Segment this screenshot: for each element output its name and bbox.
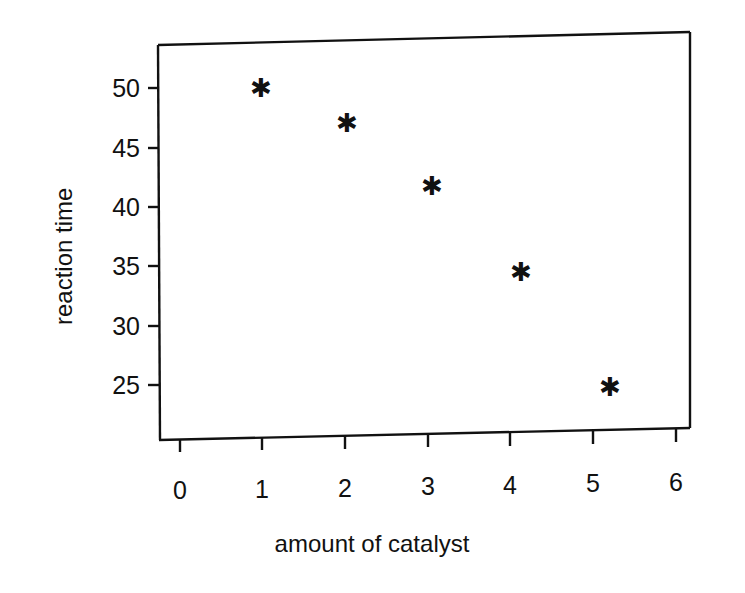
y-tick-label-45: 45: [80, 136, 140, 161]
y-tick-label-40: 40: [80, 195, 140, 220]
x-tick-label-5: 5: [573, 471, 613, 496]
x-axis-title: amount of catalyst: [172, 532, 572, 556]
x-tick-label-0: 0: [160, 478, 200, 503]
data-point-5: ✱: [599, 372, 621, 402]
x-tick-label-1: 1: [242, 477, 282, 502]
axis-spine-bottom: [159, 428, 690, 440]
x-tick-label-3: 3: [408, 474, 448, 499]
x-tick-label-4: 4: [490, 473, 530, 498]
y-tick-label-25: 25: [80, 373, 140, 398]
data-point-4: ✱: [510, 257, 532, 287]
data-points: ✱ ✱ ✱ ✱ ✱: [250, 73, 621, 402]
axis-spine-left: [158, 45, 160, 440]
x-axis-ticks: [180, 429, 676, 452]
x-tick-label-6: 6: [656, 470, 696, 495]
axis-spine-top: [158, 32, 690, 45]
data-point-1: ✱: [250, 73, 272, 103]
data-point-3: ✱: [421, 171, 443, 201]
scatter-plot-figure: ✱ ✱ ✱ ✱ ✱ 50 45 40 35 30 25 0 1 2 3 4 5 …: [0, 0, 745, 593]
data-point-2: ✱: [336, 108, 358, 138]
y-tick-label-50: 50: [80, 76, 140, 101]
x-tick-label-2: 2: [325, 476, 365, 501]
y-axis-title: reaction time: [52, 188, 76, 325]
y-tick-label-35: 35: [80, 254, 140, 279]
y-tick-label-30: 30: [80, 314, 140, 339]
